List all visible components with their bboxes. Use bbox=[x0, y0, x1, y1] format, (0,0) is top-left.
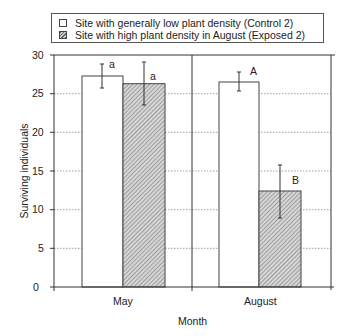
sig-label-aug-control: A bbox=[250, 65, 257, 77]
bar-may-control bbox=[82, 76, 123, 287]
xtick-august: August bbox=[244, 295, 277, 307]
chart-plot bbox=[0, 0, 344, 336]
ytick-25: 25 bbox=[32, 87, 44, 99]
bar-may-exposed bbox=[123, 84, 165, 287]
bar-aug-control bbox=[219, 82, 259, 287]
ytick-5: 5 bbox=[38, 242, 44, 254]
sig-label-aug-exposed: B bbox=[292, 174, 299, 186]
sig-label-may-exposed: a bbox=[150, 70, 156, 82]
ytick-15: 15 bbox=[32, 165, 44, 177]
xtick-may: May bbox=[113, 295, 133, 307]
ytick-0: 0 bbox=[33, 281, 39, 293]
x-axis-label: Month bbox=[178, 315, 207, 327]
sig-label-may-control: a bbox=[109, 58, 115, 70]
ytick-10: 10 bbox=[32, 203, 44, 215]
y-axis-label: Surviving individuals bbox=[18, 111, 30, 231]
ytick-20: 20 bbox=[32, 126, 44, 138]
ytick-30: 30 bbox=[32, 49, 44, 61]
